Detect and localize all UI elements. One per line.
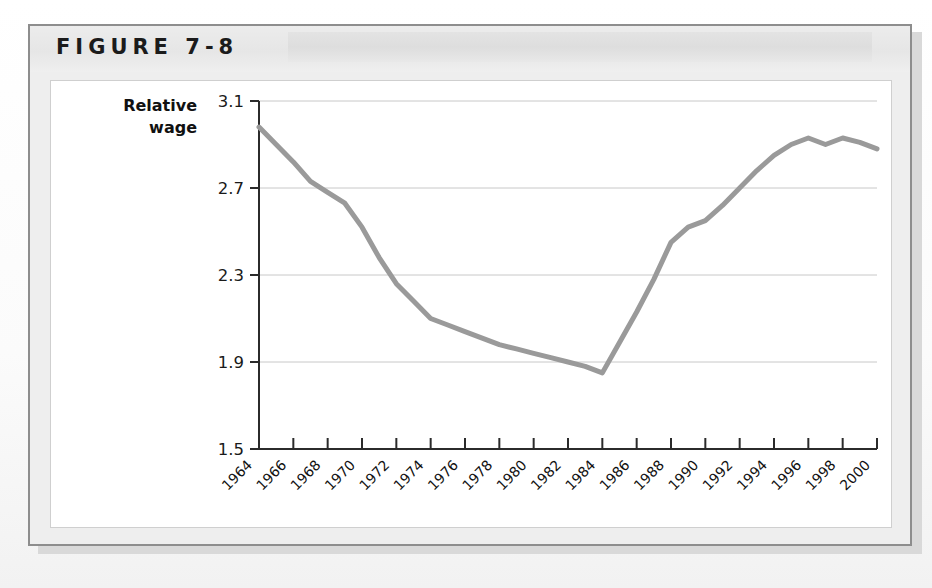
x-tick-label-1966: 1966 xyxy=(253,457,290,494)
figure-title-band xyxy=(288,32,872,62)
x-tick-label-1988: 1988 xyxy=(631,457,668,494)
y-tick-label-1.5: 1.5 xyxy=(218,440,244,459)
x-tick-label-1968: 1968 xyxy=(287,457,324,494)
x-tick-label-1974: 1974 xyxy=(390,457,427,494)
chart-card: 1.51.92.32.73.1Relativewage1964196619681… xyxy=(50,80,892,528)
x-tick-label-1986: 1986 xyxy=(596,457,633,494)
x-tick-label-1992: 1992 xyxy=(699,457,736,494)
x-tick-label-1994: 1994 xyxy=(734,457,771,494)
x-tick-label-1976: 1976 xyxy=(425,457,462,494)
y-axis-title-line-1: Relative xyxy=(123,96,197,115)
figure-panel: FIGURE 7-8 1.51.92.32.73.1Relativewage19… xyxy=(28,24,912,546)
figure-header-band: FIGURE 7-8 xyxy=(30,26,910,72)
x-tick-label-1980: 1980 xyxy=(493,457,530,494)
x-tick-label-1978: 1978 xyxy=(459,457,496,494)
x-tick-label-2000: 2000 xyxy=(837,457,874,494)
y-tick-label-1.9: 1.9 xyxy=(218,353,244,372)
data-line-relative-wage xyxy=(259,127,877,373)
x-tick-label-1972: 1972 xyxy=(356,457,393,494)
y-tick-label-2.7: 2.7 xyxy=(218,179,244,198)
x-tick-label-1990: 1990 xyxy=(665,457,702,494)
relative-wage-line-chart: 1.51.92.32.73.1Relativewage1964196619681… xyxy=(51,81,891,527)
x-tick-label-1984: 1984 xyxy=(562,457,599,494)
y-tick-label-3.1: 3.1 xyxy=(218,92,244,111)
figure-page: FIGURE 7-8 1.51.92.32.73.1Relativewage19… xyxy=(0,0,932,588)
y-axis-title-line-2: wage xyxy=(149,118,197,137)
figure-number-label: FIGURE 7-8 xyxy=(56,35,238,59)
x-tick-label-1964: 1964 xyxy=(219,457,256,494)
y-tick-label-2.3: 2.3 xyxy=(218,266,244,285)
x-tick-label-1996: 1996 xyxy=(768,457,805,494)
x-tick-label-1970: 1970 xyxy=(322,457,359,494)
x-tick-label-1982: 1982 xyxy=(528,457,565,494)
x-tick-label-1998: 1998 xyxy=(802,457,839,494)
